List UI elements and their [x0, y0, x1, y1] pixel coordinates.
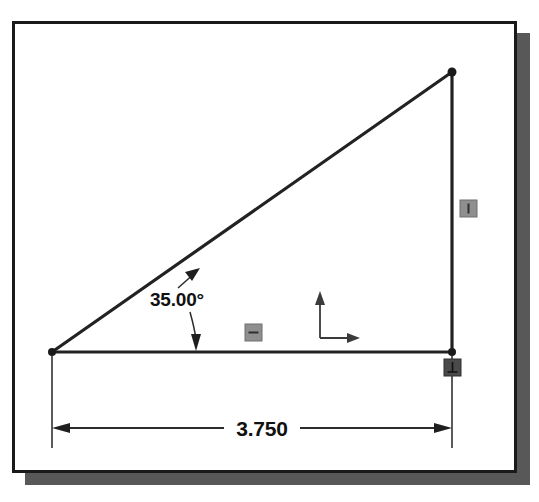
sketch-canvas: 3.750 35.00° — [0, 0, 539, 502]
sheet-face — [12, 21, 517, 473]
apex-vertex-point[interactable] — [448, 68, 457, 77]
perpendicular-constraint[interactable] — [444, 359, 461, 376]
bottom-right-vertex-point[interactable] — [448, 348, 456, 356]
horizontal-constraint[interactable] — [245, 324, 262, 341]
vertical-constraint[interactable] — [460, 200, 477, 217]
base-angle-dimension-text[interactable]: 35.00° — [150, 289, 204, 310]
base-length-dimension-text[interactable]: 3.750 — [236, 417, 288, 440]
left-vertex-point[interactable] — [48, 348, 56, 356]
